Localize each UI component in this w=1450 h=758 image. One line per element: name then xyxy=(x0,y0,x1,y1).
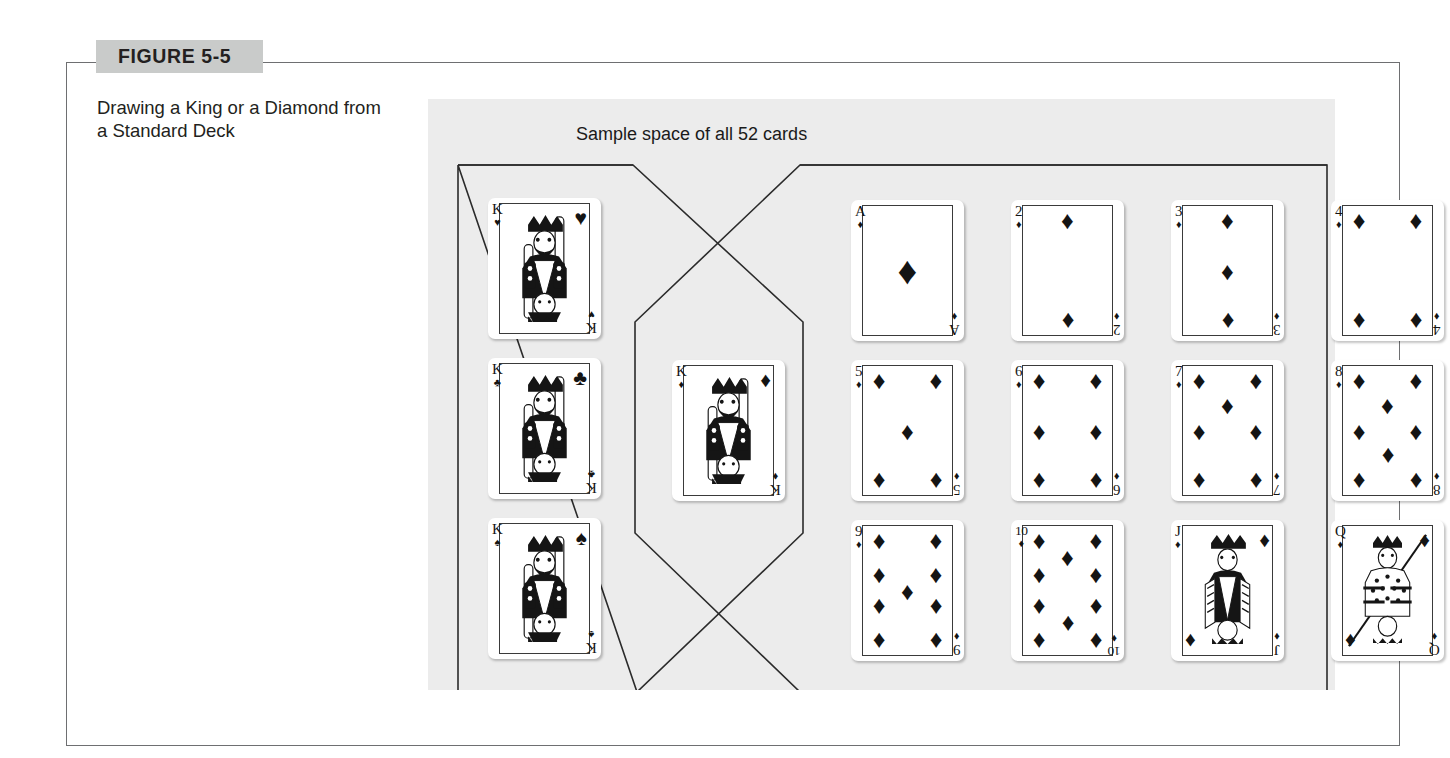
heart-icon: ♥ xyxy=(588,309,595,320)
diamond-icon: ♦ xyxy=(1033,629,1046,654)
diamond-icon: ♦ xyxy=(1273,311,1279,322)
diamond-icon: ♦ xyxy=(1353,207,1366,232)
diamond-icon: ♦ xyxy=(1353,309,1366,334)
card-rank: 9 xyxy=(855,524,863,539)
card-corner-index-bottom-right: 5♦ xyxy=(953,471,961,497)
card-six-of-diamonds[interactable]: 6♦♦♦♦♦♦♦6♦ xyxy=(1011,360,1124,501)
diamond-icon: ♦ xyxy=(1176,379,1182,390)
card-jack-of-diamonds[interactable]: J♦ ♦♦J♦ xyxy=(1171,520,1284,661)
card-ten-of-diamonds[interactable]: 10♦♦♦♦♦♦♦♦♦♦♦10♦ xyxy=(1011,520,1124,661)
diamond-icon-large: ♦ xyxy=(1419,529,1430,550)
card-corner-index-bottom-right: K ♣ xyxy=(586,469,597,495)
card-king-of-diamonds[interactable]: K ♦ ♦ K xyxy=(672,360,785,501)
diamond-icon: ♦ xyxy=(1089,418,1102,443)
diamond-icon-large: ♦ xyxy=(1345,631,1356,652)
card-three-of-diamonds[interactable]: 3♦♦♦♦3♦ xyxy=(1171,200,1284,341)
spade-icon: ♠ xyxy=(589,629,595,640)
card-eight-of-diamonds[interactable]: 8♦♦♦♦♦♦♦♦♦8♦ xyxy=(1331,360,1444,501)
diamond-icon: ♦ xyxy=(1336,379,1342,390)
heart-icon-large: ♥ xyxy=(575,207,587,228)
card-rank: K xyxy=(586,640,597,655)
diamond-icon: ♦ xyxy=(953,631,959,642)
card-rank: 8 xyxy=(1335,364,1343,379)
diamond-icon: ♦ xyxy=(1089,469,1102,494)
diamond-icon: ♦ xyxy=(1433,471,1439,482)
card-ace-of-diamonds[interactable]: A♦♦A♦ xyxy=(851,200,964,341)
card-five-of-diamonds[interactable]: 5♦♦♦♦♦♦5♦ xyxy=(851,360,964,501)
diamond-icon: ♦ xyxy=(1018,538,1024,549)
diamond-icon: ♦ xyxy=(953,471,959,482)
diamond-icon: ♦ xyxy=(1033,561,1046,586)
card-king-of-hearts[interactable]: K ♥ ♥ K xyxy=(488,198,601,339)
card-corner-index-bottom-right: 7♦ xyxy=(1273,471,1281,497)
card-king-of-spades[interactable]: K ♠ ♠ K xyxy=(488,518,601,659)
card-corner-index-bottom-right: 4♦ xyxy=(1433,311,1441,337)
diamond-icon: ♦ xyxy=(1033,418,1046,443)
diamond-icon: ♦ xyxy=(901,418,914,443)
card-corner-index-bottom-right: 8♦ xyxy=(1433,471,1441,497)
diamond-icon: ♦ xyxy=(1033,469,1046,494)
diamond-icon: ♦ xyxy=(873,527,886,552)
diamond-icon: ♦ xyxy=(929,629,942,654)
heart-icon: ♥ xyxy=(494,217,501,228)
diamond-icon: ♦ xyxy=(1221,207,1234,232)
diamond-icon: ♦ xyxy=(679,379,685,390)
card-rank: 5 xyxy=(953,482,961,497)
diamond-icon: ♦ xyxy=(1221,393,1234,418)
diamond-icon: ♦ xyxy=(1061,309,1074,334)
card-rank: Q xyxy=(1429,642,1440,657)
card-corner-index-bottom-right: 3♦ xyxy=(1273,311,1281,337)
card-rank: K xyxy=(586,480,597,495)
card-corner-index-bottom-right: K ♠ xyxy=(586,629,597,655)
card-nine-of-diamonds[interactable]: 9♦♦♦♦♦♦♦♦♦♦9♦ xyxy=(851,520,964,661)
diamond-icon: ♦ xyxy=(1336,219,1342,230)
card-rank: 4 xyxy=(1433,322,1441,337)
diamond-icon: ♦ xyxy=(1061,544,1074,569)
diamond-icon-large: ♦ xyxy=(1259,529,1270,550)
card-pip-field: ♦ xyxy=(867,210,948,331)
diamond-icon: ♦ xyxy=(1113,471,1119,482)
card-four-of-diamonds[interactable]: 4♦♦♦♦♦4♦ xyxy=(1331,200,1444,341)
card-corner-index-bottom-right: A♦ xyxy=(949,311,960,337)
diamond-icon: ♦ xyxy=(1089,367,1102,392)
diamond-icon: ♦ xyxy=(1221,309,1234,334)
diamond-icon: ♦ xyxy=(873,595,886,620)
card-two-of-diamonds[interactable]: 2♦♦♦2♦ xyxy=(1011,200,1124,341)
card-pip-field: ♦♦♦♦♦♦♦♦♦♦ xyxy=(1027,530,1108,651)
card-rank: 2 xyxy=(1113,322,1121,337)
card-king-of-clubs[interactable]: K ♣ ♣ K xyxy=(488,358,601,499)
card-rank: 4 xyxy=(1335,204,1343,219)
card-pip-field: ♦♦♦♦♦♦♦♦ xyxy=(1347,370,1428,491)
club-icon-large: ♣ xyxy=(573,367,587,388)
diamond-icon: ♦ xyxy=(1193,367,1206,392)
diamond-icon: ♦ xyxy=(1432,631,1438,642)
card-rank: 8 xyxy=(1433,482,1441,497)
diamond-icon: ♦ xyxy=(1338,539,1344,550)
king-face-illustration xyxy=(685,367,772,494)
card-corner-index-top-left: 2♦ xyxy=(1015,204,1023,230)
diamond-icon: ♦ xyxy=(873,629,886,654)
card-rank: 3 xyxy=(1175,204,1183,219)
card-rank: A xyxy=(855,204,866,219)
diamond-icon: ♦ xyxy=(1193,469,1206,494)
diamond-icon: ♦ xyxy=(1176,219,1182,230)
card-corner-index-top-left: 8♦ xyxy=(1335,364,1343,390)
card-corner-index-top-left: 10♦ xyxy=(1015,524,1028,549)
club-icon: ♣ xyxy=(494,377,501,388)
diamond-icon: ♦ xyxy=(1016,219,1022,230)
figure-number-label: FIGURE 5-5 xyxy=(118,45,231,68)
diamond-icon: ♦ xyxy=(1273,471,1279,482)
card-pip-field: ♦♦♦♦♦♦ xyxy=(1027,370,1108,491)
diamond-icon: ♦ xyxy=(1061,612,1074,637)
diamond-icon: ♦ xyxy=(929,527,942,552)
card-corner-index-bottom-right: J♦ xyxy=(1274,631,1280,657)
diamond-icon-large: ♦ xyxy=(1185,631,1196,652)
card-seven-of-diamonds[interactable]: 7♦♦♦♦♦♦♦♦7♦ xyxy=(1171,360,1284,501)
diamond-icon: ♦ xyxy=(1175,539,1181,550)
card-queen-of-diamonds[interactable]: Q♦ ♦♦Q♦ xyxy=(1331,520,1444,661)
diamond-icon: ♦ xyxy=(1089,629,1102,654)
diamond-icon: ♦ xyxy=(898,251,918,290)
card-corner-index-top-left: A♦ xyxy=(855,204,866,230)
diamond-icon: ♦ xyxy=(1381,443,1394,468)
card-corner-index-bottom-right: K ♥ xyxy=(586,309,597,335)
